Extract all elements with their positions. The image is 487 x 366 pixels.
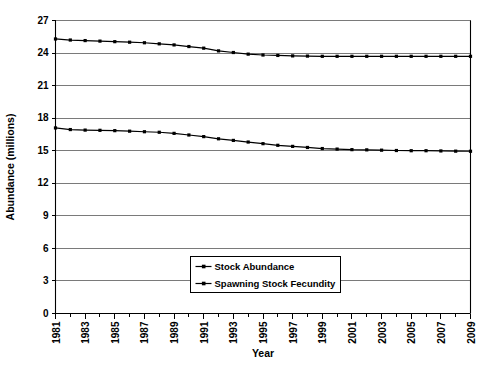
series-1-marker-1983	[84, 129, 87, 132]
series-1-marker-1989	[172, 132, 175, 135]
series-1-marker-2002	[365, 148, 368, 151]
series-1-marker-1987	[143, 130, 146, 133]
series-0-marker-1982	[69, 38, 72, 41]
x-tick-label-1981: 1981	[51, 321, 62, 344]
series-1-marker-1984	[98, 129, 101, 132]
series-0-marker-1999	[321, 55, 324, 58]
series-1-marker-2001	[350, 148, 353, 151]
x-tick-label-1985: 1985	[110, 321, 121, 344]
series-1-marker-2007	[439, 149, 442, 152]
series-1-marker-1981	[54, 126, 57, 129]
series-0-marker-1997	[291, 54, 294, 57]
series-0-marker-1989	[172, 43, 175, 46]
series-0-marker-2007	[439, 55, 442, 58]
x-tick-label-1983: 1983	[80, 321, 91, 344]
series-1-marker-2000	[336, 147, 339, 150]
series-1-marker-1999	[321, 147, 324, 150]
series-0-marker-1992	[217, 49, 220, 52]
series-0-marker-2008	[454, 55, 457, 58]
series-0-marker-2002	[365, 55, 368, 58]
x-tick-label-1989: 1989	[169, 321, 180, 344]
series-0-marker-1983	[84, 39, 87, 42]
series-1-marker-1993	[232, 139, 235, 142]
series-1-marker-1991	[202, 135, 205, 138]
x-tick-label-2005: 2005	[406, 321, 417, 344]
y-tick-label-9: 9	[43, 210, 49, 221]
series-1-marker-2006	[424, 149, 427, 152]
x-tick-label-2003: 2003	[377, 321, 388, 344]
abundance-line-chart: 0369121518212427198119831985198719891991…	[0, 0, 487, 366]
y-tick-label-24: 24	[37, 47, 49, 58]
x-tick-label-2001: 2001	[347, 321, 358, 344]
y-tick-label-6: 6	[43, 243, 49, 254]
series-0-marker-2004	[395, 55, 398, 58]
y-tick-label-12: 12	[37, 177, 49, 188]
series-1-marker-1985	[113, 129, 116, 132]
series-0-marker-1981	[54, 37, 57, 40]
series-0-marker-2005	[410, 55, 413, 58]
series-1-marker-1992	[217, 137, 220, 140]
series-1-marker-1982	[69, 128, 72, 131]
series-1-marker-2009	[469, 150, 472, 153]
y-tick-label-3: 3	[43, 275, 49, 286]
legend-swatch-marker-0	[202, 265, 206, 269]
x-tick-label-1993: 1993	[228, 321, 239, 344]
series-0-marker-2001	[350, 55, 353, 58]
y-axis-title: Abundance (millions)	[4, 114, 16, 221]
series-0-marker-1990	[187, 45, 190, 48]
series-1-marker-2005	[410, 149, 413, 152]
series-1-marker-2008	[454, 150, 457, 153]
series-1-marker-1986	[128, 130, 131, 133]
series-1-marker-1997	[291, 145, 294, 148]
x-axis-title: Year	[252, 347, 274, 359]
legend-label-0: Stock Abundance	[215, 261, 295, 272]
series-0-marker-1984	[98, 40, 101, 43]
series-1-marker-2003	[380, 149, 383, 152]
legend-label-1: Spawning Stock Fecundity	[215, 278, 337, 289]
series-0-marker-1988	[158, 42, 161, 45]
series-1-marker-2004	[395, 149, 398, 152]
series-1-marker-1996	[276, 144, 279, 147]
series-1-marker-1995	[261, 142, 264, 145]
y-tick-label-15: 15	[37, 145, 49, 156]
x-tick-label-2009: 2009	[466, 321, 477, 344]
series-0-marker-1987	[143, 41, 146, 44]
series-1-marker-1988	[158, 131, 161, 134]
y-tick-label-18: 18	[37, 112, 49, 123]
series-0-marker-2006	[424, 55, 427, 58]
chart-canvas: 0369121518212427198119831985198719891991…	[0, 0, 487, 366]
series-0-marker-1985	[113, 40, 116, 43]
series-1-marker-1998	[306, 146, 309, 149]
series-0-marker-1993	[232, 51, 235, 54]
x-tick-label-1995: 1995	[258, 321, 269, 344]
x-tick-label-2007: 2007	[436, 321, 447, 344]
x-tick-label-1997: 1997	[288, 321, 299, 344]
series-0-marker-2000	[336, 55, 339, 58]
x-tick-label-1999: 1999	[317, 321, 328, 344]
series-0-marker-1986	[128, 41, 131, 44]
series-0-marker-1998	[306, 54, 309, 57]
x-tick-label-1991: 1991	[199, 321, 210, 344]
series-0-marker-1996	[276, 54, 279, 57]
series-1-marker-1990	[187, 133, 190, 136]
x-tick-label-1987: 1987	[139, 321, 150, 344]
series-0-marker-2009	[469, 55, 472, 58]
series-0-marker-2003	[380, 55, 383, 58]
y-tick-label-27: 27	[37, 15, 49, 26]
series-0-marker-1995	[261, 53, 264, 56]
y-tick-label-0: 0	[43, 308, 49, 319]
y-tick-label-21: 21	[37, 80, 49, 91]
series-1-marker-1994	[247, 140, 250, 143]
series-0-marker-1994	[247, 53, 250, 56]
series-0-marker-1991	[202, 47, 205, 50]
legend-swatch-marker-1	[202, 282, 206, 286]
